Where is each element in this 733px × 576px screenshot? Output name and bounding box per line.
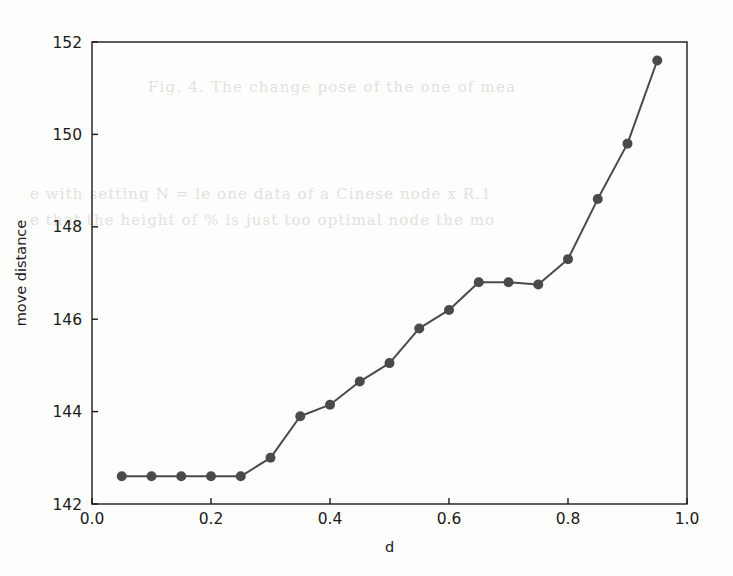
- data-point-marker[interactable]: [593, 194, 603, 204]
- y-tick-label: 142: [52, 496, 82, 514]
- x-tick-label: 0.8: [556, 510, 581, 528]
- line-chart: 0.00.20.40.60.81.0142144146148150152dmov…: [0, 0, 733, 576]
- x-tick-label: 0.0: [80, 510, 105, 528]
- plot-frame: [92, 42, 687, 504]
- y-tick-label: 146: [52, 311, 82, 329]
- data-point-marker[interactable]: [295, 411, 305, 421]
- data-point-marker[interactable]: [414, 323, 424, 333]
- x-tick-label: 0.6: [437, 510, 462, 528]
- data-point-marker[interactable]: [623, 139, 633, 149]
- data-point-marker[interactable]: [444, 305, 454, 315]
- data-point-marker[interactable]: [117, 471, 127, 481]
- data-point-marker[interactable]: [147, 471, 157, 481]
- data-point-marker[interactable]: [266, 453, 276, 463]
- data-point-marker[interactable]: [355, 377, 365, 387]
- x-tick-label: 0.4: [318, 510, 343, 528]
- x-tick-label: 1.0: [675, 510, 700, 528]
- data-point-marker[interactable]: [563, 254, 573, 264]
- data-point-marker[interactable]: [504, 277, 514, 287]
- chart-figure: Fig. 4. The change pose of the one of me…: [0, 0, 733, 576]
- data-point-marker[interactable]: [474, 277, 484, 287]
- data-series-line: [122, 60, 658, 476]
- data-point-marker[interactable]: [325, 400, 335, 410]
- data-point-marker[interactable]: [236, 471, 246, 481]
- data-point-marker[interactable]: [533, 280, 543, 290]
- data-point-marker[interactable]: [206, 471, 216, 481]
- data-point-marker[interactable]: [176, 471, 186, 481]
- x-axis-title: d: [385, 539, 394, 555]
- y-tick-label: 144: [52, 403, 82, 421]
- data-point-marker[interactable]: [652, 55, 662, 65]
- y-axis-title: move distance: [13, 220, 29, 327]
- y-tick-label: 148: [52, 218, 82, 236]
- x-tick-label: 0.2: [199, 510, 224, 528]
- data-point-marker[interactable]: [385, 358, 395, 368]
- y-tick-label: 152: [52, 34, 82, 52]
- y-tick-label: 150: [52, 126, 82, 144]
